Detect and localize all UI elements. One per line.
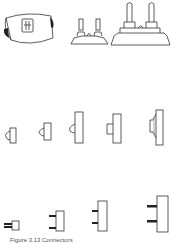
curved-connector-body xyxy=(4,14,54,43)
block-connector-4 xyxy=(107,114,121,143)
large-twin-post-insulator xyxy=(111,3,170,46)
dome-connector-1 xyxy=(6,128,17,143)
pin-connector-1 xyxy=(4,221,19,230)
figure-caption: Figure 3.13 Connectors xyxy=(10,237,73,243)
dome-connector-3 xyxy=(70,112,83,143)
connectors-figure xyxy=(0,0,172,243)
dome-connector-2 xyxy=(39,123,51,140)
small-twin-post-insulator xyxy=(71,19,108,44)
pin-connector-4 xyxy=(147,196,168,232)
pin-connector-2 xyxy=(49,211,64,231)
pin-connector-3 xyxy=(92,201,107,231)
stepped-connector-5 xyxy=(150,110,163,145)
